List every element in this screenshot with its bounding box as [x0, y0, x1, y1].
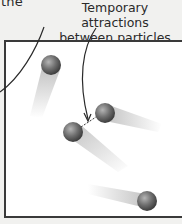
particle-3 — [63, 122, 83, 142]
particle-diagram — [0, 0, 182, 224]
particle-4 — [137, 191, 157, 211]
particle-2 — [95, 103, 115, 123]
particle-1 — [41, 55, 61, 75]
particle-1-trail — [30, 68, 60, 118]
leader-line-arrow — [82, 28, 96, 119]
leader-line-left — [0, 27, 44, 92]
particle-4-trail — [88, 184, 146, 208]
particle-2-trail — [106, 104, 162, 132]
